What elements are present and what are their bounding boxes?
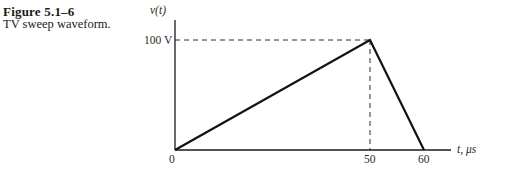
y-tick-100v: 100 V [144, 34, 173, 46]
x-tick-60: 60 [418, 153, 430, 165]
origin-label: 0 [169, 153, 175, 165]
y-axis-label: v(t) [150, 4, 166, 17]
sweep-waveform [175, 40, 424, 150]
waveform-chart: v(t) 100 V 0 50 60 t, μs [0, 0, 506, 179]
x-axis-label: t, μs [457, 143, 477, 156]
x-tick-50: 50 [364, 153, 376, 165]
